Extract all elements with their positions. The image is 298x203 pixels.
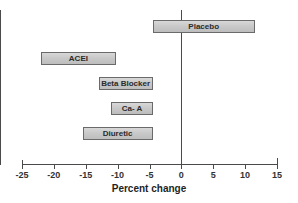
x-axis-tick	[277, 165, 278, 169]
bar-label: Placebo	[188, 23, 219, 31]
x-axis-tick	[118, 165, 119, 169]
x-axis-tick	[181, 165, 182, 169]
x-axis-tick	[54, 165, 55, 169]
axis-left-boundary	[0, 10, 1, 165]
bar-acei: ACEI	[41, 52, 116, 65]
bar-beta-blocker: Beta Blocker	[99, 77, 153, 90]
bar-diuretic: Diuretic	[83, 127, 153, 140]
x-axis-tick-label: -25	[7, 170, 37, 180]
bar-label: Diuretic	[103, 130, 133, 138]
x-axis-tick-label: -10	[103, 170, 133, 180]
x-axis-tick	[150, 165, 151, 169]
bar-label: ACEI	[69, 55, 88, 63]
x-axis-title: Percent change	[0, 183, 298, 194]
x-axis-tick	[213, 165, 214, 169]
x-axis-tick-label: 10	[230, 170, 260, 180]
x-axis-tick-end	[277, 158, 278, 165]
x-axis-tick-label: 5	[198, 170, 228, 180]
bar-label: Ca- A	[122, 105, 143, 113]
x-axis-tick-label: 0	[166, 170, 196, 180]
x-axis-tick-label: 15	[262, 170, 292, 180]
zero-reference-line	[181, 10, 182, 165]
x-axis-tick	[86, 165, 87, 169]
x-axis-tick-label: -20	[39, 170, 69, 180]
x-axis-tick-label: -15	[71, 170, 101, 180]
x-axis-tick	[245, 165, 246, 169]
bar-placebo: Placebo	[153, 20, 255, 33]
bar-ca-a: Ca- A	[111, 102, 152, 115]
x-axis-tick-label: -5	[135, 170, 165, 180]
bar-label: Beta Blocker	[101, 80, 150, 88]
chart-root: -25-20-15-10-5051015 PlaceboACEIBeta Blo…	[0, 0, 298, 203]
x-axis-tick	[22, 165, 23, 169]
